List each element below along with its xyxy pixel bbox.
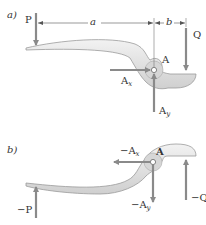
force-neg-p-label: −P <box>17 205 32 215</box>
panel-a-label: a) <box>7 10 17 20</box>
panel-b-lever <box>26 144 196 194</box>
free-body-diagram: a) P a b Q A Ax Ay b) −Ax A −Ay −Q −P <box>0 0 206 225</box>
panel-a-lever <box>26 40 196 89</box>
force-q-label: Q <box>193 30 201 40</box>
force-neg-q-label: −Q <box>191 193 206 203</box>
dimension-b-label: b <box>166 17 172 27</box>
point-a-label: A <box>162 55 169 65</box>
force-neg-ay-label: −Ay <box>131 200 151 212</box>
force-neg-ax-label: −Ax <box>120 146 140 158</box>
force-ax-label: Ax <box>121 76 132 88</box>
dimension-a-label: a <box>90 17 96 27</box>
point-a-label-b: A <box>156 147 164 157</box>
panel-b-label: b) <box>7 145 17 155</box>
force-p-label: P <box>25 15 32 25</box>
force-ay-label: Ay <box>159 106 170 118</box>
diagram-graphics <box>0 0 206 225</box>
pin-a-icon <box>150 159 155 164</box>
pin-a-icon <box>151 67 156 72</box>
